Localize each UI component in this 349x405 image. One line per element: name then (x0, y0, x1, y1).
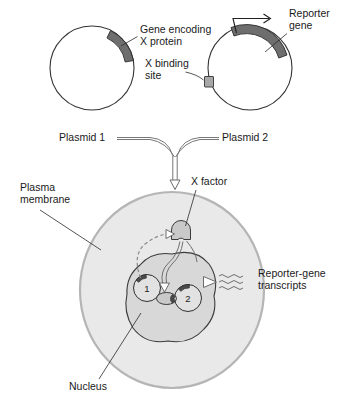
plasmid-2-merge-line-inner (176, 140, 220, 158)
reporter-assay-diagram: Gene encoding X protein X binding site R… (0, 0, 349, 405)
gene-encoding-label-line1: Gene encoding (140, 23, 211, 35)
x-factor-shape (172, 221, 191, 240)
x-binding-label-line2: site (145, 69, 162, 81)
x-factor-binding-contact (170, 295, 175, 304)
figure-root: Gene encoding X protein X binding site R… (0, 0, 349, 405)
plasmid-1-group (50, 26, 134, 110)
plasmid-1-label: Plasmid 1 (59, 131, 105, 143)
reporter-gene-label-line1: Reporter (289, 7, 330, 19)
plasma-membrane-leader-line (40, 210, 101, 250)
convergence-arrowhead-icon (170, 180, 180, 190)
inner-plasmid-1-number: 1 (144, 283, 149, 294)
plasmid-2-group (205, 14, 293, 110)
nucleus-label: Nucleus (69, 380, 107, 392)
reporter-transcripts-label-line2: transcripts (258, 279, 306, 291)
plasmid-1-merge-line-inner (117, 140, 175, 158)
plasma-membrane-label-line2: membrane (20, 193, 70, 205)
plasmid-2-ring (208, 26, 292, 110)
inner-plasmid-2-number: 2 (185, 293, 190, 304)
x-binding-site-square (205, 77, 214, 88)
gene-encoding-label-line2: X protein (140, 35, 182, 47)
reporter-transcripts-label-line1: Reporter-gene (258, 267, 326, 279)
x-binding-leader-line (186, 72, 204, 80)
plasmid-1-merge-line-outer (117, 138, 173, 156)
reporter-gene-label-line2: gene (289, 19, 313, 31)
x-binding-label-line1: X binding (145, 57, 189, 69)
plasmid-2-label: Plasmid 2 (222, 131, 268, 143)
x-factor-label: X factor (191, 175, 228, 187)
plasma-membrane-label-line1: Plasma (20, 181, 55, 193)
x-factor-group (172, 221, 191, 240)
